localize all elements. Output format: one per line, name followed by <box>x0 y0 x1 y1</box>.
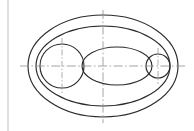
technical-drawing-svg <box>0 0 194 131</box>
drawing-canvas <box>0 0 194 131</box>
